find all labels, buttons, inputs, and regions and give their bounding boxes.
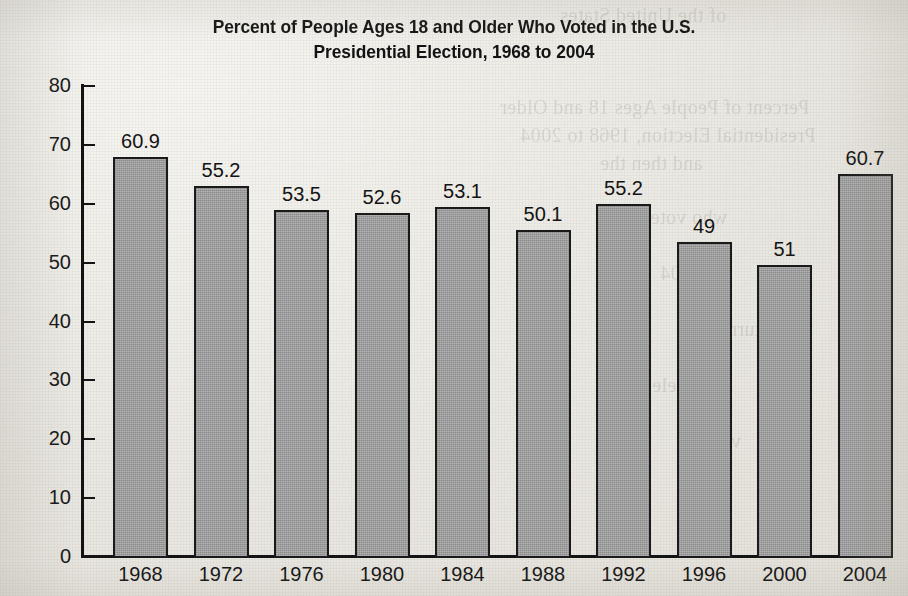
bar-value-label: 49 xyxy=(663,216,746,236)
x-tick-label: 2004 xyxy=(826,563,905,585)
x-tick-label: 1988 xyxy=(504,563,583,585)
y-tick-label: 40 xyxy=(11,311,71,331)
bar-value-label: 55.2 xyxy=(180,160,263,180)
bar xyxy=(838,174,893,558)
x-tick-label: 1976 xyxy=(262,563,341,585)
y-tick-mark xyxy=(84,144,95,146)
y-tick-label: 60 xyxy=(11,193,71,213)
y-tick-mark xyxy=(84,203,95,205)
bar xyxy=(355,213,410,558)
y-tick-label: 80 xyxy=(11,75,71,95)
x-tick-label: 1996 xyxy=(665,563,744,585)
scanned-page: of the United StatesPercent of People Ag… xyxy=(0,0,908,596)
bar-value-label: 60.9 xyxy=(99,131,182,151)
bar xyxy=(516,230,571,558)
x-tick-label: 1980 xyxy=(343,563,422,585)
y-tick-mark xyxy=(84,379,95,381)
y-tick-mark xyxy=(84,321,95,323)
bar xyxy=(757,265,812,558)
bar-value-label: 53.1 xyxy=(421,181,504,201)
bar xyxy=(274,210,329,558)
x-tick-label: 1968 xyxy=(101,563,180,585)
y-tick-label: 10 xyxy=(11,487,71,507)
y-tick-label: 20 xyxy=(11,428,71,448)
y-tick-label: 30 xyxy=(11,369,71,389)
bar-value-label: 55.2 xyxy=(582,178,665,198)
x-tick-label: 1984 xyxy=(423,563,502,585)
bar xyxy=(113,157,168,558)
bar-value-label: 51 xyxy=(743,239,826,259)
y-tick-mark xyxy=(84,438,95,440)
x-tick-label: 1992 xyxy=(584,563,663,585)
bar-value-label: 52.6 xyxy=(341,187,424,207)
bar xyxy=(596,204,651,558)
bar-value-label: 50.1 xyxy=(502,204,585,224)
y-tick-label: 70 xyxy=(11,134,71,154)
bar-value-label: 53.5 xyxy=(260,184,343,204)
bar xyxy=(677,242,732,558)
bar xyxy=(194,186,249,558)
bar xyxy=(435,207,490,558)
y-tick-label: 0 xyxy=(11,546,71,566)
x-tick-label: 1972 xyxy=(182,563,261,585)
y-tick-label: 50 xyxy=(11,252,71,272)
bar-chart: 01020304050607080 60.955.253.552.653.150… xyxy=(0,0,908,596)
y-tick-mark xyxy=(84,262,95,264)
y-tick-mark xyxy=(84,85,95,87)
bar-value-label: 60.7 xyxy=(824,148,907,168)
y-tick-mark xyxy=(84,497,95,499)
x-tick-label: 2000 xyxy=(745,563,824,585)
